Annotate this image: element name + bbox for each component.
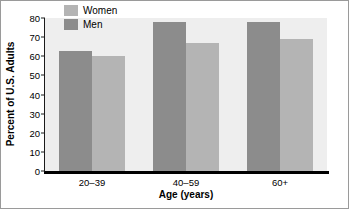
x-axis-line (44, 171, 329, 174)
y-tick-label: 10 (24, 146, 40, 157)
plot-area: 01020304050607080 20–3940–5960+ (45, 18, 327, 171)
y-tick-mark (41, 37, 45, 38)
y-tick-label: 50 (24, 70, 40, 81)
y-tick-label: 20 (24, 127, 40, 138)
legend-item-men: Men (64, 19, 117, 30)
y-tick-label: 70 (24, 32, 40, 43)
y-tick-mark (41, 75, 45, 76)
y-tick-mark (41, 151, 45, 152)
legend-swatch-icon (64, 5, 78, 16)
y-tick-label: 60 (24, 51, 40, 62)
legend-item-women: Women (64, 5, 117, 16)
bar-women-0 (92, 56, 125, 171)
bar-women-1 (186, 43, 219, 171)
bar-men-1 (153, 22, 186, 171)
x-tick-label: 20–39 (79, 177, 105, 188)
y-axis-title-text: Percent of U.S. Adults (5, 41, 16, 146)
y-tick-mark (41, 132, 45, 133)
y-tick-label: 40 (24, 89, 40, 100)
bar-chart-figure: Percent of U.S. Adults 01020304050607080… (0, 0, 349, 209)
y-tick-mark (41, 171, 45, 172)
bar-men-0 (59, 51, 92, 171)
legend-swatch-icon (64, 19, 78, 30)
legend-label: Women (83, 5, 117, 16)
x-axis-title: Age (years) (45, 189, 327, 200)
y-tick-mark (41, 94, 45, 95)
y-tick-mark (41, 56, 45, 57)
x-tick-label: 60+ (272, 177, 288, 188)
bar-women-2 (280, 39, 313, 171)
y-tick-mark (41, 113, 45, 114)
x-tick-label: 40–59 (173, 177, 199, 188)
y-tick-label: 80 (24, 13, 40, 24)
legend: WomenMen (64, 5, 117, 30)
legend-label: Men (83, 19, 102, 30)
y-tick-mark (41, 18, 45, 19)
y-axis-title: Percent of U.S. Adults (3, 11, 17, 176)
bar-men-2 (247, 22, 280, 171)
y-tick-label: 0 (24, 166, 40, 177)
y-tick-label: 30 (24, 108, 40, 119)
